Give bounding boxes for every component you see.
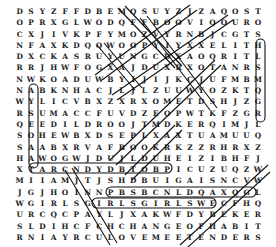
grid-cell[interactable]: Q [230, 187, 241, 198]
grid-cell[interactable]: F [93, 29, 104, 40]
grid-cell[interactable]: S [14, 221, 25, 232]
grid-cell[interactable]: R [93, 119, 104, 130]
grid-cell[interactable]: J [71, 175, 82, 186]
grid-cell[interactable]: U [173, 85, 184, 96]
grid-cell[interactable]: E [173, 153, 184, 164]
grid-cell[interactable]: A [218, 221, 229, 232]
grid-cell[interactable]: P [82, 29, 93, 40]
grid-cell[interactable]: L [252, 51, 263, 62]
grid-cell[interactable]: I [93, 198, 104, 209]
grid-cell[interactable]: K [173, 142, 184, 153]
grid-cell[interactable]: O [230, 6, 241, 17]
grid-cell[interactable]: O [93, 17, 104, 28]
grid-cell[interactable]: D [184, 187, 195, 198]
grid-cell[interactable]: W [252, 175, 263, 186]
grid-cell[interactable]: J [116, 209, 127, 220]
grid-cell[interactable]: A [37, 164, 48, 175]
grid-cell[interactable]: X [25, 51, 36, 62]
grid-cell[interactable]: O [116, 232, 127, 243]
grid-cell[interactable]: R [14, 232, 25, 243]
grid-cell[interactable]: A [207, 130, 218, 141]
grid-cell[interactable]: Z [150, 85, 161, 96]
grid-cell[interactable]: Y [116, 74, 127, 85]
grid-cell[interactable]: A [25, 153, 36, 164]
grid-cell[interactable]: B [93, 6, 104, 17]
grid-cell[interactable]: X [25, 29, 36, 40]
grid-cell[interactable]: J [105, 85, 116, 96]
grid-cell[interactable]: E [173, 232, 184, 243]
grid-cell[interactable]: U [93, 232, 104, 243]
grid-cell[interactable]: L [116, 85, 127, 96]
grid-cell[interactable]: U [105, 153, 116, 164]
grid-cell[interactable]: D [82, 164, 93, 175]
grid-cell[interactable]: X [161, 62, 172, 73]
grid-cell[interactable]: T [25, 164, 36, 175]
grid-cell[interactable]: A [82, 85, 93, 96]
grid-cell[interactable]: S [14, 130, 25, 141]
grid-cell[interactable]: N [25, 232, 36, 243]
grid-cell[interactable]: Z [196, 153, 207, 164]
grid-cell[interactable]: B [150, 17, 161, 28]
grid-cell[interactable]: W [71, 153, 82, 164]
grid-cell[interactable]: Q [207, 119, 218, 130]
grid-cell[interactable]: W [37, 153, 48, 164]
grid-cell[interactable]: G [25, 187, 36, 198]
grid-cell[interactable]: B [150, 164, 161, 175]
grid-cell[interactable]: Z [241, 164, 252, 175]
grid-cell[interactable]: C [59, 209, 70, 220]
grid-cell[interactable]: L [139, 130, 150, 141]
grid-cell[interactable]: Q [218, 6, 229, 17]
grid-cell[interactable]: D [161, 51, 172, 62]
grid-cell[interactable]: T [241, 29, 252, 40]
grid-cell[interactable]: E [207, 40, 218, 51]
grid-cell[interactable]: Z [105, 96, 116, 107]
grid-cell[interactable]: I [230, 40, 241, 51]
grid-cell[interactable]: K [48, 85, 59, 96]
grid-cell[interactable]: I [161, 175, 172, 186]
grid-cell[interactable]: R [25, 209, 36, 220]
grid-cell[interactable]: M [59, 175, 70, 186]
grid-cell[interactable]: P [161, 164, 172, 175]
grid-cell[interactable]: Z [252, 142, 263, 153]
grid-cell[interactable]: W [252, 164, 263, 175]
grid-cell[interactable]: H [37, 130, 48, 141]
grid-cell[interactable]: N [207, 232, 218, 243]
grid-cell[interactable]: C [93, 221, 104, 232]
grid-cell[interactable]: N [59, 85, 70, 96]
grid-cell[interactable]: R [207, 142, 218, 153]
grid-cell[interactable]: X [139, 96, 150, 107]
grid-cell[interactable]: B [196, 29, 207, 40]
grid-cell[interactable]: I [150, 74, 161, 85]
grid-cell[interactable]: W [14, 96, 25, 107]
grid-cell[interactable]: W [59, 62, 70, 73]
grid-cell[interactable]: H [105, 221, 116, 232]
grid-cell[interactable]: G [241, 108, 252, 119]
grid-cell[interactable]: C [82, 232, 93, 243]
grid-cell[interactable]: B [241, 74, 252, 85]
grid-cell[interactable]: M [116, 6, 127, 17]
grid-cell[interactable]: K [48, 51, 59, 62]
grid-cell[interactable]: Q [230, 164, 241, 175]
grid-cell[interactable]: R [105, 198, 116, 209]
grid-cell[interactable]: K [150, 209, 161, 220]
grid-cell[interactable]: A [93, 142, 104, 153]
grid-cell[interactable]: J [127, 62, 138, 73]
grid-cell[interactable]: W [59, 130, 70, 141]
grid-cell[interactable]: U [218, 164, 229, 175]
grid-cell[interactable]: I [37, 175, 48, 186]
grid-cell[interactable]: X [196, 40, 207, 51]
grid-cell[interactable]: U [196, 130, 207, 141]
grid-cell[interactable]: X [48, 40, 59, 51]
grid-cell[interactable]: Q [127, 6, 138, 17]
grid-cell[interactable]: Q [207, 17, 218, 28]
grid-cell[interactable]: S [207, 96, 218, 107]
grid-cell[interactable]: F [230, 198, 241, 209]
grid-cell[interactable]: F [59, 6, 70, 17]
grid-cell[interactable]: X [173, 130, 184, 141]
grid-cell[interactable]: Y [173, 40, 184, 51]
grid-cell[interactable]: F [218, 74, 229, 85]
grid-cell[interactable]: R [252, 108, 263, 119]
grid-cell[interactable]: L [139, 85, 150, 96]
grid-cell[interactable]: U [230, 130, 241, 141]
grid-cell[interactable]: Z [196, 142, 207, 153]
